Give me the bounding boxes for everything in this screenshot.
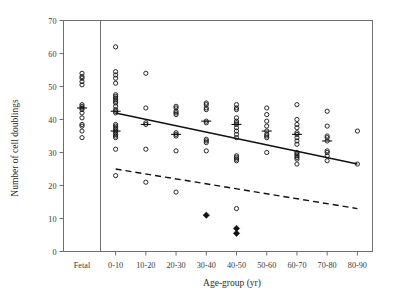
y-axis-ticks: 010203040506070 xyxy=(48,17,63,257)
data-point-open xyxy=(234,207,238,211)
y-tick-label: 0 xyxy=(52,248,56,257)
y-tick-label: 10 xyxy=(48,215,56,224)
data-point-open xyxy=(295,117,299,121)
data-point-open xyxy=(144,106,148,110)
y-tick-label: 20 xyxy=(48,182,56,191)
data-point-open xyxy=(80,136,84,140)
x-axis-title: Age-group (yr) xyxy=(203,278,261,289)
data-point-open xyxy=(265,119,269,123)
data-point-open xyxy=(325,124,329,128)
x-category-label: 70-80 xyxy=(318,261,337,270)
cell-doubling-scatter-chart: Number of cell doublings Age-group (yr) … xyxy=(0,0,398,293)
x-category-label: 0-10 xyxy=(108,261,123,270)
data-point-open xyxy=(295,103,299,107)
data-point-open xyxy=(114,174,118,178)
data-point-open xyxy=(295,162,299,166)
x-category-label: 40-50 xyxy=(227,261,246,270)
data-point-open xyxy=(265,124,269,128)
data-point-open xyxy=(355,129,359,133)
data-points xyxy=(80,45,360,237)
data-point-open xyxy=(80,116,84,120)
data-point-open xyxy=(325,109,329,113)
y-tick-label: 50 xyxy=(48,83,56,92)
data-point-open xyxy=(144,71,148,75)
x-category-label: 60-70 xyxy=(287,261,306,270)
y-tick-label: 40 xyxy=(48,116,56,125)
trend-lines xyxy=(116,113,358,209)
data-point-open xyxy=(144,180,148,184)
data-point-open xyxy=(174,190,178,194)
y-tick-label: 30 xyxy=(48,149,56,158)
x-category-label: 80-90 xyxy=(348,261,367,270)
data-point-open xyxy=(80,129,84,133)
data-point-open xyxy=(114,147,118,151)
y-axis-title: Number of cell doublings xyxy=(10,99,20,197)
x-category-label: 10-20 xyxy=(136,261,155,270)
x-axis-category-labels: Fetal0-1010-2020-3030-4040-5050-6060-707… xyxy=(74,261,367,270)
x-category-label: Fetal xyxy=(74,261,91,270)
data-point-open xyxy=(114,45,118,49)
data-point-filled xyxy=(203,212,209,218)
data-point-open xyxy=(265,112,269,116)
data-point-open xyxy=(265,150,269,154)
x-category-label: 30-40 xyxy=(197,261,216,270)
data-point-open xyxy=(114,81,118,85)
data-point-filled xyxy=(233,230,239,236)
x-category-label: 20-30 xyxy=(167,261,186,270)
y-tick-label: 70 xyxy=(48,17,56,26)
data-point-open xyxy=(325,159,329,163)
trend-line-lower-regression xyxy=(116,169,358,209)
data-point-open xyxy=(144,147,148,151)
data-point-open xyxy=(204,149,208,153)
x-category-label: 50-60 xyxy=(257,261,276,270)
x-axis-ticks xyxy=(116,252,358,256)
data-point-open xyxy=(174,149,178,153)
y-tick-label: 60 xyxy=(48,50,56,59)
data-point-open xyxy=(265,106,269,110)
